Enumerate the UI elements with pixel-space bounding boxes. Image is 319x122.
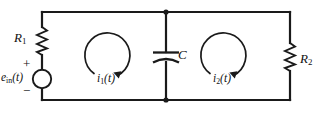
label-resistor-r2: R2 xyxy=(300,52,312,67)
label-c-letter: C xyxy=(178,47,187,62)
label-r2-subscript: 2 xyxy=(308,57,312,67)
label-i2-argument: (t) xyxy=(220,72,231,84)
voltage-source-symbol xyxy=(33,70,51,88)
label-source-polarity-plus: + xyxy=(23,57,30,70)
label-mesh-current-i1: i1(t) xyxy=(97,73,115,86)
label-mesh-current-i2: i2(t) xyxy=(213,73,231,86)
circuit-schematic-canvas xyxy=(0,0,319,122)
circuit-diagram: R1 R2 C ein(t) + − i1(t) i2(t) xyxy=(0,0,319,122)
resistor-r2-symbol xyxy=(285,43,295,71)
label-ein-argument: (t) xyxy=(12,71,23,83)
label-resistor-r1: R1 xyxy=(14,31,26,46)
label-r1-subscript: 1 xyxy=(22,36,26,46)
label-source-ein: ein(t) xyxy=(1,72,23,85)
node-dot-top xyxy=(163,9,168,14)
label-capacitor-c: C xyxy=(178,48,187,61)
label-r1-letter: R xyxy=(14,30,22,45)
resistor-r1-symbol xyxy=(37,27,47,55)
node-dot-bottom xyxy=(163,97,168,102)
label-source-polarity-minus: − xyxy=(23,84,30,97)
label-i1-argument: (t) xyxy=(104,72,115,84)
label-r2-letter: R xyxy=(300,51,308,66)
